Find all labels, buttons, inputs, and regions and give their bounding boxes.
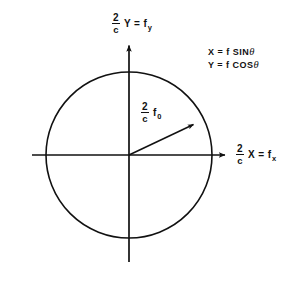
x-axis-subscript: x: [272, 154, 277, 163]
equations-block: X = f SINθ Y = f COSθ: [208, 46, 259, 71]
theta-symbol-cos: θ: [254, 59, 260, 70]
equation-sin-text: X = f SIN: [208, 47, 249, 57]
radius-expression: f0: [153, 108, 161, 118]
y-axis-expression: Y = fy: [124, 19, 152, 29]
radius-vector-line: [129, 125, 194, 156]
diagram-canvas: [0, 0, 298, 285]
radius-fraction: 2 c: [141, 102, 149, 124]
equation-cos-text: Y = f COS: [208, 60, 254, 70]
x-axis-fraction-numerator: 2: [236, 144, 244, 156]
x-axis-expression-text: X = f: [248, 149, 271, 160]
radius-fraction-denominator: c: [141, 113, 149, 123]
y-axis-fraction-numerator: 2: [112, 13, 120, 25]
equation-line-cos: Y = f COSθ: [208, 59, 259, 72]
y-axis-subscript: y: [148, 23, 153, 32]
x-axis-fraction-denominator: c: [236, 155, 244, 165]
y-axis-fraction: 2 c: [112, 13, 120, 35]
frequency-circle-diagram: 2 c Y = fy 2 c X = fx 2 c f0 X = f SINθ …: [0, 0, 298, 285]
x-axis-expression: X = fx: [248, 150, 276, 160]
radius-fraction-numerator: 2: [141, 102, 149, 114]
x-axis-fraction: 2 c: [236, 144, 244, 166]
equation-line-sin: X = f SINθ: [208, 46, 259, 59]
x-axis-label: 2 c X = fx: [236, 144, 276, 166]
y-axis-expression-text: Y = f: [124, 18, 147, 29]
radius-vector-label: 2 c f0: [141, 102, 161, 124]
y-axis-fraction-denominator: c: [112, 24, 120, 34]
y-axis-label: 2 c Y = fy: [112, 13, 152, 35]
radius-subscript: 0: [157, 112, 162, 121]
theta-symbol-sin: θ: [249, 46, 255, 57]
